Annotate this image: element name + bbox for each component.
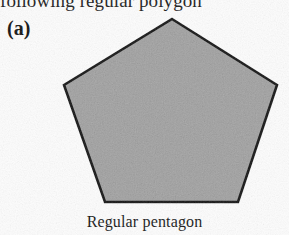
pentagon-svg bbox=[0, 0, 289, 212]
figure-page: following regular polygon (a) Regular pe… bbox=[0, 0, 289, 235]
shape-caption: Regular pentagon bbox=[0, 212, 289, 232]
shape-area bbox=[0, 0, 289, 212]
pentagon-shape bbox=[64, 19, 277, 202]
